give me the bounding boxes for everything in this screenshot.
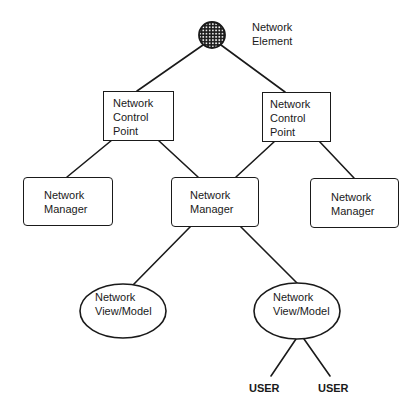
nm-left-line2: Manager	[44, 202, 112, 216]
view-right-line1: Network	[273, 290, 313, 304]
edge-element-ncp-right	[221, 45, 285, 92]
nm-right-box: Network Manager	[310, 178, 399, 228]
edge-ncp-right-nm-middle	[236, 141, 275, 177]
network-hierarchy-diagram: Network Element Network Control Point Ne…	[0, 0, 420, 408]
edge-nm-middle-view-left	[133, 226, 191, 285]
ncp-right-line2: Control	[270, 111, 330, 125]
edge-ncp-left-nm-left	[67, 140, 112, 177]
nm-middle-box: Network Manager	[171, 177, 259, 227]
ncp-right-line1: Network	[270, 97, 330, 111]
user-left-label: USER	[249, 381, 280, 395]
view-right-line2: View/Model	[273, 304, 330, 318]
ncp-left-line1: Network	[113, 96, 173, 110]
ncp-right-line3: Point	[270, 125, 330, 139]
network-element-label-2: Element	[252, 34, 292, 48]
user-right-label: USER	[318, 381, 349, 395]
ncp-right-box: Network Control Point	[262, 92, 331, 142]
nm-left-line1: Network	[44, 188, 112, 202]
edge-ncp-left-nm-middle	[158, 140, 198, 177]
edge-ncp-right-nm-right	[319, 141, 354, 178]
edge-view-right-user-right	[304, 339, 330, 376]
nm-right-line2: Manager	[331, 204, 398, 218]
edge-element-ncp-left	[137, 45, 203, 91]
nm-middle-line2: Manager	[190, 202, 258, 216]
edge-view-right-user-left	[271, 339, 296, 376]
nm-right-line1: Network	[331, 190, 398, 204]
view-left-line2: View/Model	[95, 304, 152, 318]
network-element-label-1: Network	[252, 20, 292, 34]
ncp-left-box: Network Control Point	[103, 91, 174, 141]
network-element-globe-icon	[199, 22, 225, 48]
ncp-left-line3: Point	[113, 124, 173, 138]
edge-nm-middle-view-right	[240, 226, 297, 283]
nm-left-box: Network Manager	[23, 177, 113, 226]
nm-middle-line1: Network	[190, 188, 258, 202]
view-left-line1: Network	[95, 290, 135, 304]
ncp-left-line2: Control	[113, 110, 173, 124]
